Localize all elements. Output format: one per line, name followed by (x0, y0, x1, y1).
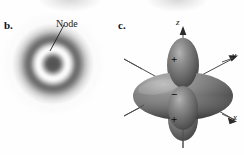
panel-letter-b: b. (4, 19, 13, 31)
phase-sign-torus: − (171, 89, 177, 100)
phase-sign-bottom-lobe: + (171, 114, 177, 125)
figure-root: b. Node c. (0, 0, 244, 155)
orbital-svg (122, 0, 244, 155)
axis-label-x: x (233, 112, 237, 122)
dz2-orbital-diagram: z y x + − + (122, 0, 244, 155)
z-axis-arrowhead (180, 26, 187, 35)
top-edge-smudge (38, 0, 102, 12)
phase-sign-top-lobe: + (171, 54, 177, 65)
node-leader-line (40, 24, 66, 60)
axis-label-z: z (176, 17, 180, 27)
node-label: Node (56, 18, 78, 29)
axis-label-y: y (232, 50, 236, 60)
